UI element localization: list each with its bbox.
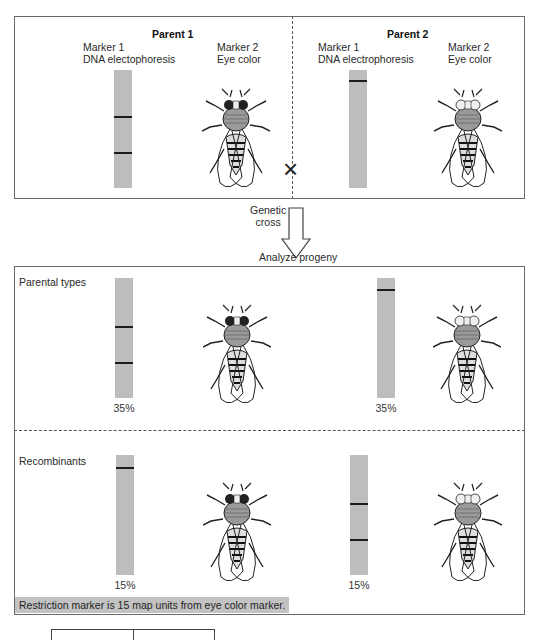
conclusion-note: Restriction marker is 15 map units from … [15, 597, 289, 613]
dark-eye-fly-icon [203, 481, 271, 587]
gel-band [350, 503, 368, 505]
gel-band [349, 80, 367, 82]
parental-right-percent: 35% [366, 402, 406, 414]
parent2-marker1-label: Marker 1 DNA electrophoresis [318, 41, 414, 65]
gel-band [350, 539, 368, 541]
gel-band [116, 467, 134, 469]
parental-right-gel-lane [377, 278, 395, 398]
table-divider [133, 630, 134, 640]
parental-left-gel-lane [115, 278, 133, 398]
gel-band [114, 116, 132, 118]
recombinant-right-gel-lane [350, 455, 368, 575]
dark-eye-fly-icon [202, 87, 270, 193]
light-eye-fly-icon [434, 481, 502, 587]
light-eye-fly-icon [434, 87, 502, 193]
recombinants-label: Recombinants [19, 455, 86, 467]
bottom-table-outline [51, 629, 215, 640]
light-eye-fly-icon [433, 303, 501, 409]
gel-band [114, 152, 132, 154]
analyze-progeny-label: Analyze progeny [259, 251, 337, 263]
parental-types-label: Parental types [19, 276, 86, 288]
gel-band [115, 326, 133, 328]
parent2-gel-lane [349, 70, 367, 188]
cross-symbol: × [283, 156, 298, 182]
progeny-divider [14, 430, 525, 431]
recombinant-left-gel-lane [116, 455, 134, 575]
parent1-title: Parent 1 [152, 28, 193, 40]
gel-band [377, 289, 395, 291]
recombinant-left-percent: 15% [105, 579, 145, 591]
parent1-gel-lane [114, 70, 132, 188]
parent2-marker2-label: Marker 2 Eye color [448, 41, 492, 65]
recombinant-right-percent: 15% [339, 579, 379, 591]
parent1-marker1-label: Marker 1 DNA electophoresis [83, 41, 175, 65]
parental-left-percent: 35% [104, 402, 144, 414]
dark-eye-fly-icon [203, 303, 271, 409]
gel-band [115, 362, 133, 364]
parent2-title: Parent 2 [387, 28, 428, 40]
parent1-marker2-label: Marker 2 Eye color [217, 41, 261, 65]
